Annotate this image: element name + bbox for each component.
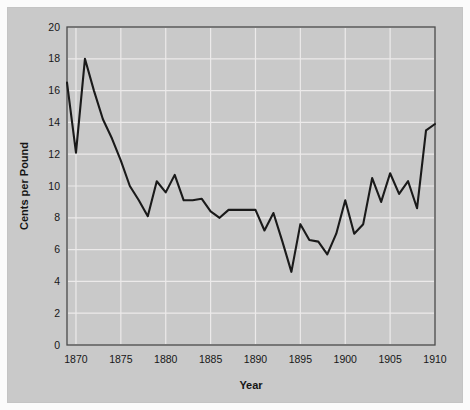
y-tick-label: 16: [48, 84, 60, 96]
x-tick-label: 1900: [334, 353, 358, 365]
x-tick-label: 1870: [64, 353, 88, 365]
x-axis-tick-labels: 187018751880188518901895190019051910: [64, 353, 447, 365]
x-tick-label: 1895: [289, 353, 313, 365]
x-tick-label: 1875: [109, 353, 133, 365]
y-tick-label: 18: [48, 52, 60, 64]
line-chart-svg: 02468101214161820 1870187518801885189018…: [8, 8, 462, 402]
x-tick-label: 1905: [378, 353, 402, 365]
y-tick-label: 12: [48, 148, 60, 160]
x-tick-label: 1890: [244, 353, 268, 365]
x-tick-label: 1880: [154, 353, 178, 365]
y-tick-label: 4: [54, 275, 60, 287]
y-axis-tick-labels: 02468101214161820: [48, 21, 60, 351]
y-tick-label: 14: [48, 116, 60, 128]
y-tick-label: 10: [48, 180, 60, 192]
y-tick-label: 8: [54, 211, 60, 223]
chart-panel: 02468101214161820 1870187518801885189018…: [8, 8, 462, 402]
y-tick-label: 0: [54, 339, 60, 351]
x-axis-title: Year: [239, 379, 263, 391]
y-tick-label: 2: [54, 307, 60, 319]
y-tick-label: 6: [54, 243, 60, 255]
x-tick-label: 1885: [199, 353, 223, 365]
y-axis-title: Cents per Pound: [18, 142, 30, 230]
figure-root: 02468101214161820 1870187518801885189018…: [0, 0, 470, 410]
y-tick-label: 20: [48, 21, 60, 33]
x-tick-label: 1910: [423, 353, 447, 365]
